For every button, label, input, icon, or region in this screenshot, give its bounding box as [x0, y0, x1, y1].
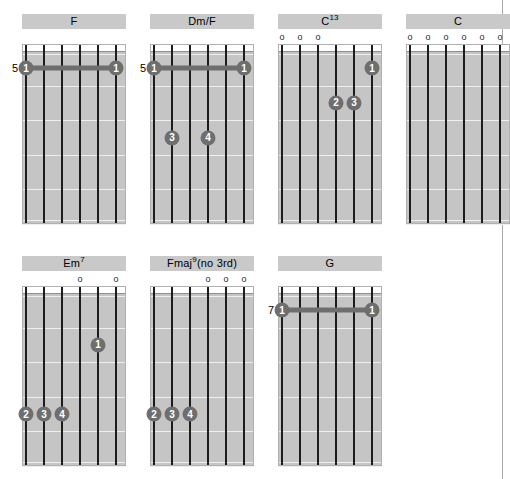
- fret-line: [278, 220, 382, 221]
- nut-strip: [150, 286, 254, 293]
- chord-name-base: G: [326, 257, 335, 269]
- fret-line: [22, 397, 126, 398]
- guitar-string: [445, 44, 447, 224]
- finger-marker: 1: [109, 61, 124, 76]
- fret-line: [278, 120, 382, 121]
- fret-line: [150, 189, 254, 190]
- nut-strip: [278, 286, 382, 293]
- open-string-marker: o: [279, 31, 284, 43]
- fretboard: [22, 286, 126, 466]
- chord-name: Fmaj9(no 3rd): [167, 258, 237, 269]
- fret-line: [278, 155, 382, 156]
- chord-name-base: Em: [63, 257, 80, 269]
- guitar-string: [43, 44, 45, 224]
- barre-bar: [26, 66, 116, 71]
- chord-name: Em7: [63, 258, 85, 269]
- fret-line: [150, 120, 254, 121]
- guitar-string: [189, 286, 191, 466]
- nut-strip: [22, 44, 126, 51]
- open-string-row: oo: [22, 273, 126, 285]
- fret-line: [406, 120, 510, 121]
- finger-marker: 4: [201, 130, 216, 145]
- fret-line: [278, 328, 382, 329]
- finger-marker: 1: [275, 303, 290, 318]
- nut-strip: [406, 44, 510, 51]
- fret-line: [22, 462, 126, 463]
- chord-name-superscript: 13: [329, 13, 338, 22]
- chord-name-superscript: 7: [80, 255, 85, 264]
- open-string-row: oooooo: [406, 31, 510, 43]
- fret-line: [278, 51, 382, 52]
- guitar-string: [61, 44, 63, 224]
- chord-title-bar: Em7: [22, 256, 126, 271]
- open-string-marker: o: [461, 31, 466, 43]
- fret-line: [278, 189, 382, 190]
- guitar-string: [409, 44, 411, 224]
- finger-marker: 1: [19, 61, 34, 76]
- chord-name: G: [326, 258, 335, 269]
- guitar-string: [79, 44, 81, 224]
- finger-marker: 3: [165, 130, 180, 145]
- chord-title-bar: C: [406, 14, 510, 29]
- guitar-string: [225, 44, 226, 224]
- finger-marker: 3: [165, 407, 180, 422]
- open-string-marker: o: [443, 31, 448, 43]
- fret-line: [278, 86, 382, 87]
- fret-line: [22, 296, 126, 297]
- chord-name: F: [71, 16, 78, 27]
- chord-name: Dm/F: [188, 16, 216, 27]
- fret-line: [22, 362, 126, 363]
- guitar-string: [43, 286, 45, 466]
- fretboard-border: [22, 286, 126, 466]
- chord-name-tail: (no 3rd): [197, 257, 237, 269]
- chord-name: C: [454, 16, 462, 27]
- fret-line: [150, 224, 254, 225]
- open-string-marker: o: [297, 31, 302, 43]
- guitar-string: [61, 286, 63, 466]
- fret-line: [150, 362, 254, 363]
- chord-title-bar: G: [278, 256, 382, 271]
- fret-line: [278, 293, 382, 294]
- open-string-marker: o: [77, 273, 82, 285]
- open-string-row: [22, 31, 126, 43]
- guitar-string: [299, 286, 301, 466]
- guitar-string: [427, 44, 429, 224]
- fret-line: [22, 189, 126, 190]
- finger-marker: 2: [329, 95, 344, 110]
- fretboard: [406, 44, 510, 224]
- fretboard-border: [150, 286, 254, 466]
- guitar-string: [463, 44, 465, 224]
- guitar-string: [153, 286, 155, 466]
- fret-line: [406, 51, 510, 52]
- fret-position-number: 5: [12, 63, 18, 74]
- fret-line: [150, 86, 254, 87]
- fret-line: [150, 220, 254, 221]
- open-string-marker: o: [497, 31, 502, 43]
- guitar-string: [97, 44, 98, 224]
- fret-line: [22, 54, 126, 55]
- chord-name-base: Dm/F: [188, 15, 216, 27]
- fret-line: [150, 328, 254, 329]
- guitar-string: [335, 286, 337, 466]
- open-string-row: [278, 273, 382, 285]
- fret-line: [406, 155, 510, 156]
- fret-line: [278, 224, 382, 225]
- guitar-string: [189, 44, 191, 224]
- guitar-string: [499, 44, 500, 224]
- fret-line: [150, 397, 254, 398]
- fret-line: [406, 189, 510, 190]
- fret-line: [278, 431, 382, 432]
- open-string-marker: o: [479, 31, 484, 43]
- open-string-marker: o: [315, 31, 320, 43]
- fret-line: [22, 220, 126, 221]
- finger-marker: 2: [19, 407, 34, 422]
- open-string-marker: o: [407, 31, 412, 43]
- fret-line: [278, 296, 382, 297]
- chord-title-bar: Fmaj9(no 3rd): [150, 256, 254, 271]
- finger-marker: 1: [237, 61, 252, 76]
- fret-line: [278, 462, 382, 463]
- fret-line: [22, 86, 126, 87]
- finger-marker: 4: [55, 407, 70, 422]
- fretboard-border: [406, 44, 510, 224]
